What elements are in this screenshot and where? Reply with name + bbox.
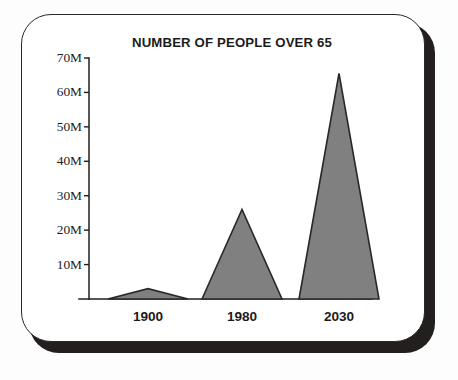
- chart-data-marks: [108, 73, 379, 299]
- chart-triangle-mark: [108, 289, 188, 299]
- chart-card-frame: NUMBER OF PEOPLE OVER 65 10M20M30M40M50M…: [21, 14, 425, 342]
- chart-triangle-mark: [202, 209, 282, 299]
- x-axis-tick-label: 1900: [133, 309, 163, 324]
- x-axis-tick-label: 1980: [227, 309, 257, 324]
- x-axis-tick-label: 2030: [324, 309, 354, 324]
- chart-container: NUMBER OF PEOPLE OVER 65 10M20M30M40M50M…: [22, 15, 426, 343]
- chart-plot-area: [22, 15, 426, 343]
- chart-triangle-mark: [299, 73, 379, 299]
